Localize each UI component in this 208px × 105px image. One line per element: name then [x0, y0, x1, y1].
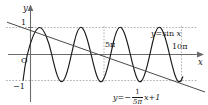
sine-equation-operator: =sin — [156, 29, 177, 38]
fraction-denominator: 5π — [132, 98, 143, 105]
y-axis-arrowhead — [28, 5, 34, 12]
x-tick-label-10pi: 10π — [172, 43, 187, 51]
line-equation-operator: =− — [118, 93, 131, 102]
line-equation-tail: x+1 — [144, 93, 160, 102]
y-axis-label: y — [23, 4, 28, 13]
y-tick-label-minus-1: −1 — [13, 83, 25, 91]
figure-canvas — [0, 0, 208, 105]
origin-label: O — [21, 57, 28, 65]
sine-equation-annotation: y=sin x — [151, 30, 181, 38]
line-equation-fraction: 1 5π — [132, 89, 143, 105]
sine-equation-variable: x — [177, 29, 182, 38]
x-axis-label: x — [198, 58, 203, 67]
fraction-numerator: 1 — [132, 89, 143, 96]
y-tick-label-1: 1 — [21, 19, 26, 27]
x-tick-label-5pi: 5π — [105, 41, 115, 49]
math-figure-sine-and-line: y x O 1 −1 5π 10π y=sin x y=− 1 5π x+1 — [0, 0, 208, 105]
line-equation-annotation: y=− 1 5π x+1 — [113, 89, 160, 105]
